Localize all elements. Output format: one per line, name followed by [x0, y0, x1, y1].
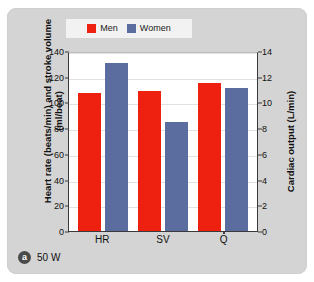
y-axis-right-tick-label: 2 [262, 202, 267, 211]
bar-women-hr [105, 63, 128, 231]
bar-women-q [225, 88, 248, 231]
bar-group-q [198, 83, 248, 231]
y-axis-left-tick-label: 0 [59, 228, 64, 237]
y-axis-right-tick-label: 6 [262, 150, 267, 159]
legend-entry-women: Women [127, 24, 171, 33]
bar-men-hr [78, 93, 101, 231]
x-axis-tick-label: HR [77, 235, 127, 245]
y-axis-right-ticks: 02468101214 [262, 52, 282, 232]
plot-area [68, 52, 258, 232]
y-axis-right-tick-label: 4 [262, 176, 267, 185]
y-axis-right-tickmark [258, 180, 262, 181]
bar-groups [69, 53, 257, 231]
y-axis-right-tickmark [258, 103, 262, 104]
bar-men-q [198, 83, 221, 231]
caption-badge: a [18, 251, 31, 264]
y-axis-right-tick-label: 14 [262, 48, 272, 57]
y-axis-right-title-wrap: Cardiac output (L/min) [282, 52, 298, 232]
y-axis-right-tickmark [258, 129, 262, 130]
bar-group-sv [138, 91, 188, 231]
legend-label-women: Women [140, 24, 171, 33]
y-axis-right-title: Cardiac output (L/min) [285, 52, 296, 232]
y-axis-right-tick-label: 12 [262, 73, 272, 82]
x-axis-tick-label: SV [138, 235, 188, 245]
x-axis-tick-label: Q [199, 235, 249, 245]
y-axis-left-tick-label: 20 [54, 202, 64, 211]
bar-group-hr [78, 63, 128, 231]
y-axis-right-tickmark [258, 206, 262, 207]
y-axis-left-tick-label: 80 [54, 125, 64, 134]
legend-swatch-women-icon [127, 24, 136, 33]
y-axis-left-tick-label: 60 [54, 150, 64, 159]
y-axis-left-ticks: 020406080100120140 [38, 52, 64, 232]
y-axis-right-tickmark [258, 154, 262, 155]
figure-caption: a 50 W [18, 251, 60, 264]
caption-text: 50 W [37, 253, 60, 263]
bar-women-sv [165, 122, 188, 231]
legend-swatch-men-icon [87, 24, 96, 33]
y-axis-left-tick-label: 120 [49, 73, 64, 82]
chart-legend: Men Women [66, 19, 192, 38]
y-axis-left-tick-label: 100 [49, 99, 64, 108]
y-axis-right-tick-label: 10 [262, 99, 272, 108]
y-axis-left-tick-label: 140 [49, 48, 64, 57]
legend-label-men: Men [100, 24, 118, 33]
x-axis-ticks: HRSVQ [68, 235, 258, 245]
y-axis-right-tick-label: 8 [262, 125, 267, 134]
y-axis-right-tickmark [258, 52, 262, 53]
bar-men-sv [138, 91, 161, 231]
y-axis-right-tickmark [258, 77, 262, 78]
y-axis-left-title-wrap: Heart rate (beats/min) and stroke volume… [18, 52, 34, 232]
legend-entry-men: Men [87, 24, 118, 33]
y-axis-right-tickmark [258, 232, 262, 233]
figure-panel: Men Women Heart rate (beats/min) and str… [0, 0, 314, 282]
y-axis-left-tick-label: 40 [54, 176, 64, 185]
y-axis-right-tick-label: 0 [262, 228, 267, 237]
